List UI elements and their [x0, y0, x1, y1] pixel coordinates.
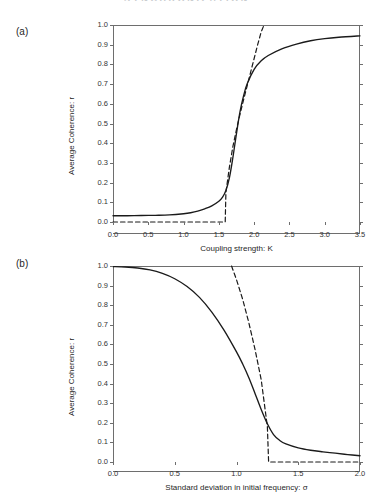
panel-a-y-axis-label: Average Coherence: r	[67, 97, 76, 175]
theoretical-branch-curve	[113, 25, 264, 222]
y-tick-label: 0.8	[98, 301, 108, 309]
x-tick-label: 0.5	[143, 231, 153, 239]
y-tick-mark	[110, 305, 113, 306]
y-tick-mark	[110, 25, 113, 26]
x-tick-mark	[184, 222, 185, 225]
y-tick-mark-right	[360, 266, 363, 267]
x-tick-label: 0.0	[108, 470, 118, 478]
x-tick-label: 1.0	[231, 470, 241, 478]
x-tick-mark	[298, 462, 299, 465]
y-tick-mark-right	[360, 143, 363, 144]
y-tick-label: 0.0	[98, 218, 108, 226]
y-tick-label: 0.4	[98, 380, 108, 388]
y-tick-label: 0.1	[98, 439, 108, 447]
x-tick-label: 3.5	[355, 231, 365, 239]
y-tick-label: 0.1	[98, 199, 108, 207]
x-tick-label: 1.5	[293, 470, 303, 478]
x-tick-label: 0.5	[170, 470, 180, 478]
x-tick-label: 3.0	[319, 231, 329, 239]
y-tick-mark-right	[360, 124, 363, 125]
y-tick-label: 0.5	[98, 360, 108, 368]
x-tick-mark	[113, 222, 114, 225]
x-tick-label: 1.0	[178, 231, 188, 239]
panel-a-plot: Average Coherence: r Coupling strength: …	[113, 25, 360, 222]
y-tick-mark-right	[360, 45, 363, 46]
y-tick-mark-right	[360, 403, 363, 404]
y-tick-label: 0.6	[98, 100, 108, 108]
x-tick-mark	[325, 222, 326, 225]
y-tick-mark	[110, 286, 113, 287]
y-tick-mark-right	[360, 202, 363, 203]
y-tick-mark	[110, 325, 113, 326]
y-tick-label: 0.2	[98, 419, 108, 427]
y-tick-mark	[110, 183, 113, 184]
y-tick-mark-right	[360, 64, 363, 65]
y-tick-label: 0.8	[98, 61, 108, 69]
y-tick-mark	[110, 104, 113, 105]
y-tick-mark-right	[360, 183, 363, 184]
y-tick-mark	[110, 344, 113, 345]
y-tick-mark-right	[360, 344, 363, 345]
y-tick-label: 0.3	[98, 399, 108, 407]
y-tick-mark	[110, 163, 113, 164]
x-tick-label: 2.0	[249, 231, 259, 239]
y-tick-label: 0.5	[98, 120, 108, 128]
x-tick-mark	[360, 222, 361, 225]
panel-a-label: (a)	[16, 26, 28, 37]
y-tick-mark	[110, 124, 113, 125]
y-tick-label: 0.9	[98, 282, 108, 290]
panel-b-curves	[113, 266, 360, 462]
panel-b-y-axis-label: Average Coherence: r	[67, 338, 76, 416]
y-tick-mark	[110, 384, 113, 385]
y-tick-label: 0.2	[98, 179, 108, 187]
y-tick-label: 0.7	[98, 321, 108, 329]
x-tick-mark	[360, 462, 361, 465]
running-head: SYNCHRONIZATION	[0, 0, 374, 1]
panel-b-label: (b)	[16, 258, 28, 269]
y-tick-mark	[110, 403, 113, 404]
y-tick-mark	[110, 266, 113, 267]
coherence-curve	[113, 267, 360, 456]
y-tick-mark	[110, 364, 113, 365]
y-tick-mark-right	[360, 325, 363, 326]
x-tick-mark	[113, 462, 114, 465]
y-tick-mark	[110, 84, 113, 85]
y-tick-mark	[110, 202, 113, 203]
panel-b-plot: Average Coherence: r Standard deviation …	[113, 266, 360, 462]
y-tick-mark-right	[360, 104, 363, 105]
x-tick-mark	[219, 222, 220, 225]
y-tick-mark	[110, 64, 113, 65]
panel-b: (b) Average Coherence: r Standard deviat…	[0, 252, 374, 500]
x-tick-label: 2.5	[284, 231, 294, 239]
y-tick-label: 0.3	[98, 159, 108, 167]
theoretical-branch-curve	[232, 266, 360, 462]
y-tick-label: 1.0	[98, 21, 108, 29]
y-tick-mark-right	[360, 442, 363, 443]
x-tick-label: 2.0	[355, 470, 365, 478]
panel-a-curves	[113, 25, 360, 222]
x-tick-label: 1.5	[214, 231, 224, 239]
coherence-curve	[113, 36, 360, 216]
y-tick-mark-right	[360, 305, 363, 306]
panel-b-x-axis-label: Standard deviation in initial frequency:…	[113, 483, 360, 492]
panel-a: (a) Average Coherence: r Coupling streng…	[0, 14, 374, 250]
x-tick-mark	[254, 222, 255, 225]
y-tick-mark	[110, 143, 113, 144]
x-tick-mark	[148, 222, 149, 225]
y-tick-mark	[110, 45, 113, 46]
y-tick-mark-right	[360, 423, 363, 424]
y-tick-mark-right	[360, 286, 363, 287]
y-tick-label: 0.0	[98, 458, 108, 466]
y-tick-mark	[110, 442, 113, 443]
y-tick-label: 0.7	[98, 80, 108, 88]
y-tick-mark-right	[360, 84, 363, 85]
y-tick-label: 1.0	[98, 262, 108, 270]
y-tick-label: 0.9	[98, 41, 108, 49]
y-tick-mark-right	[360, 25, 363, 26]
x-tick-mark	[289, 222, 290, 225]
y-tick-label: 0.6	[98, 341, 108, 349]
y-tick-mark-right	[360, 364, 363, 365]
y-tick-label: 0.4	[98, 139, 108, 147]
x-tick-mark	[237, 462, 238, 465]
x-tick-mark	[175, 462, 176, 465]
